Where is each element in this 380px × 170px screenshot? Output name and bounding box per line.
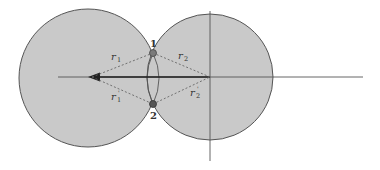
svg-text:2: 2 xyxy=(184,55,188,63)
point-1-label: 1 xyxy=(150,38,157,49)
svg-text:1: 1 xyxy=(117,96,121,104)
svg-text:1: 1 xyxy=(117,56,121,64)
point-1 xyxy=(150,50,157,57)
left-circle xyxy=(19,9,157,147)
point-2 xyxy=(150,101,157,108)
diagram-canvas: 1 2 r 1 r 2 r 1 ' r 2 ' xyxy=(0,0,380,170)
svg-text:2: 2 xyxy=(196,92,200,100)
point-2-label: 2 xyxy=(150,110,157,121)
two-circles-diagram: 1 2 r 1 r 2 r 1 ' r 2 ' xyxy=(0,0,380,170)
